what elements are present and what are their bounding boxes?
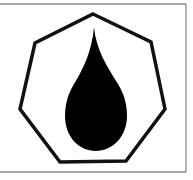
drop-icon bbox=[65, 27, 127, 151]
symbol-frame bbox=[0, 0, 193, 180]
symbol-graphic bbox=[0, 0, 193, 180]
